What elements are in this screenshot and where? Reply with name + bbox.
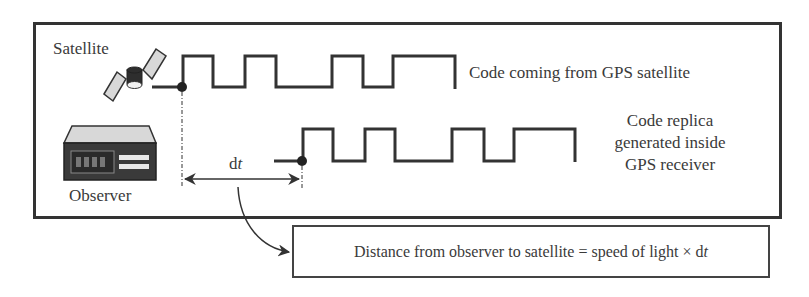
receiver-icon: [64, 126, 156, 180]
dt-label: dt: [229, 155, 242, 172]
distance-formula-var: t: [704, 243, 708, 261]
satellite-icon: [104, 49, 166, 101]
curved-arrow: [238, 187, 289, 252]
incoming-start-dot: [177, 82, 187, 92]
replica-start-dot: [297, 156, 307, 166]
incoming-code-waveform: [152, 56, 455, 92]
replica-code-waveform: [274, 129, 575, 166]
replica-code-label: Code replica generated inside GPS receiv…: [590, 110, 750, 176]
observer-label: Observer: [69, 187, 131, 204]
gps-ranging-diagram: Satellite Observer Code coming from GPS …: [0, 0, 809, 297]
satellite-label: Satellite: [53, 40, 109, 57]
incoming-code-label: Code coming from GPS satellite: [469, 64, 690, 81]
distance-formula-text: Distance from observer to satellite = sp…: [354, 243, 704, 261]
distance-formula-box: Distance from observer to satellite = sp…: [292, 225, 770, 278]
